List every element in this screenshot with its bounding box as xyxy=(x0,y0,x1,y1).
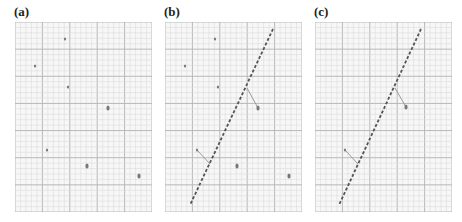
data-point xyxy=(85,163,88,168)
data-point xyxy=(184,65,186,68)
data-point xyxy=(196,149,198,152)
data-point xyxy=(34,65,36,68)
data-point xyxy=(214,38,216,41)
panel-label-a: (a) xyxy=(14,4,29,20)
data-point xyxy=(67,86,69,89)
data-point xyxy=(217,86,219,89)
data-point xyxy=(137,173,140,178)
data-point xyxy=(235,163,238,168)
panel-label-b: (b) xyxy=(164,4,180,20)
data-point xyxy=(287,173,290,178)
data-point xyxy=(106,105,109,110)
data-point xyxy=(64,38,66,41)
data-point xyxy=(46,149,48,152)
grid-panel-c xyxy=(315,22,452,212)
data-point xyxy=(344,149,346,152)
data-point xyxy=(404,104,407,109)
grid-panel-b xyxy=(165,22,302,212)
panel-label-c: (c) xyxy=(314,4,328,20)
grid-panel-a xyxy=(15,22,152,212)
data-point xyxy=(256,105,259,110)
